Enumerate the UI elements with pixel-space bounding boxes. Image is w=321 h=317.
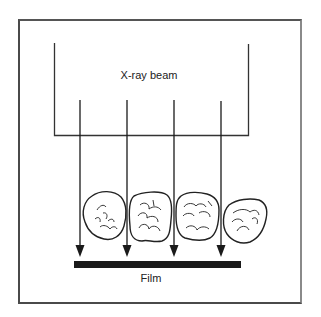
beam-label: X-ray beam [121,69,178,81]
arrowheads [76,245,226,257]
beam-source-bracket [55,43,249,136]
arrowhead-icon [170,245,179,257]
tooth-2 [129,192,171,242]
film-label: Film [141,272,162,284]
tooth-1 [83,192,126,240]
xray-diagram [0,0,321,317]
teeth [83,192,266,243]
arrowhead-icon [123,245,132,257]
film-bar [74,261,241,268]
arrowhead-icon [76,245,85,257]
tooth-4 [223,199,266,243]
tooth-3 [176,192,219,240]
arrowhead-icon [217,245,226,257]
